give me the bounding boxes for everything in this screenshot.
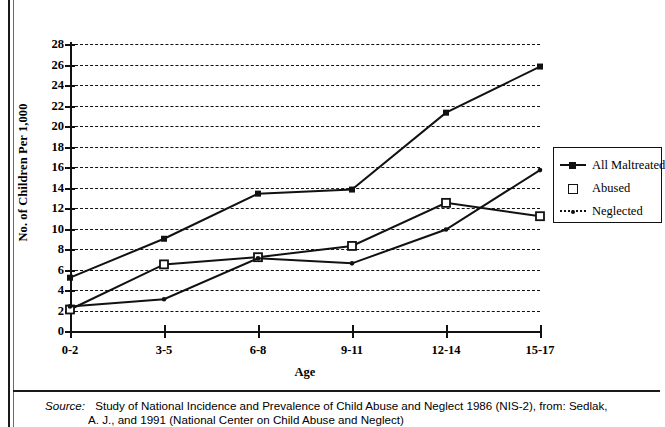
data-point-marker [256, 256, 261, 261]
x-tick-mark [164, 325, 166, 338]
series-line [70, 203, 540, 310]
y-tick-label: 22 [38, 100, 64, 113]
legend-label: Neglected [592, 204, 643, 219]
legend-marker-icon [560, 159, 586, 171]
series-line [70, 67, 540, 278]
legend-marker-icon [560, 182, 586, 194]
source-text: Study of National Incidence and Prevalen… [95, 399, 607, 412]
y-tick-label: 26 [38, 59, 64, 72]
x-tick-mark [352, 325, 354, 338]
x-tick-label: 9-11 [317, 343, 387, 358]
x-tick-label: 6-8 [223, 343, 293, 358]
data-point-marker [161, 236, 167, 242]
chart-legend: All MaltreatedAbusedNeglected [553, 147, 662, 223]
x-tick-mark [446, 325, 448, 338]
data-point-marker [67, 275, 73, 281]
x-axis-line [70, 331, 542, 333]
data-point-marker [442, 199, 450, 207]
data-point-marker [160, 260, 168, 268]
y-tick-label: 28 [38, 38, 64, 51]
legend-item-abused[interactable]: Abused [560, 180, 630, 196]
x-tick-mark [70, 325, 72, 338]
series-line [70, 170, 540, 306]
plot-area [70, 44, 540, 331]
data-point-marker [350, 261, 355, 266]
y-tick-label: 12 [38, 202, 64, 215]
y-tick-label: 6 [38, 264, 64, 277]
data-point-marker [348, 242, 356, 250]
data-point-marker [255, 191, 261, 197]
x-tick-label: 12-14 [411, 343, 481, 358]
y-tick-label: 8 [38, 243, 64, 256]
legend-item-all-maltreated[interactable]: All Maltreated [560, 157, 665, 173]
data-point-marker [537, 64, 543, 70]
y-axis-title: No. of Children Per 1,000 [16, 88, 31, 258]
y-tick-label: 2 [38, 305, 64, 318]
data-point-marker [538, 168, 543, 173]
x-tick-mark [258, 325, 260, 338]
data-point-marker [349, 187, 355, 193]
y-tick-label: 24 [38, 79, 64, 92]
source-note: Source: Study of National Incidence and … [45, 399, 645, 413]
figure-divider-rule [13, 390, 660, 392]
y-tick-label: 4 [38, 284, 64, 297]
legend-label: Abused [592, 181, 630, 196]
data-point-marker [444, 227, 449, 232]
series-layer [70, 44, 540, 331]
legend-label: All Maltreated [592, 158, 665, 173]
x-tick-label: 15-17 [505, 343, 575, 358]
data-point-marker [443, 110, 449, 116]
source-label: Source: [45, 399, 85, 412]
x-axis-title: Age [70, 365, 540, 380]
data-point-marker [162, 297, 167, 302]
source-note-line2: A. J., and 1991 (National Center on Chil… [88, 413, 648, 426]
y-tick-label: 10 [38, 223, 64, 236]
y-tick-label: 0 [38, 325, 64, 338]
y-tick-label: 20 [38, 120, 64, 133]
x-tick-mark [540, 325, 542, 338]
legend-marker-icon [560, 205, 586, 217]
y-tick-label: 18 [38, 141, 64, 154]
data-point-marker [536, 212, 544, 220]
legend-item-neglected[interactable]: Neglected [560, 203, 643, 219]
y-tick-label: 14 [38, 182, 64, 195]
x-tick-label: 0-2 [35, 343, 105, 358]
y-tick-label: 16 [38, 161, 64, 174]
x-tick-label: 3-5 [129, 343, 199, 358]
data-point-marker [68, 304, 73, 309]
